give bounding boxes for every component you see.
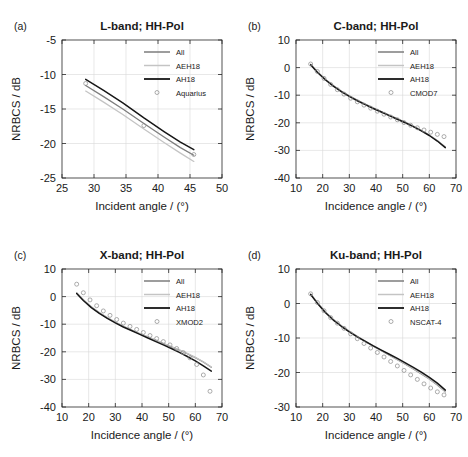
panel-tag: (a) [14, 20, 27, 32]
panel-b: (b)C-band; HH-Pol10203040506070-40-30-20… [234, 0, 468, 228]
y-tick-label: 0 [284, 62, 290, 74]
x-axis-label: Incidence angle / (°) [325, 429, 428, 441]
x-tick-label: 30 [343, 411, 355, 423]
panel-title: Ku-band; HH-Pol [330, 249, 422, 261]
panel-tag: (b) [248, 20, 261, 32]
y-tick-label: 0 [50, 291, 56, 303]
legend-label: All [410, 48, 419, 57]
x-tick-label: 50 [216, 182, 228, 194]
series-line-aeh18 [86, 91, 194, 161]
x-tick-label: 40 [136, 411, 148, 423]
panel-c: (c)X-band; HH-Pol10203040506070-40-30-20… [0, 229, 234, 457]
x-tick-label: 60 [423, 182, 435, 194]
panel-tag: (d) [248, 249, 261, 261]
panel-title: L-band; HH-Pol [100, 20, 184, 32]
y-axis-label: NRBCS / dB [10, 306, 22, 370]
x-axis-label: Incident angle / (°) [95, 200, 189, 212]
panel-title: X-band; HH-Pol [100, 249, 184, 261]
legend-swatch-marker [389, 91, 393, 95]
x-tick-label: 50 [397, 182, 409, 194]
x-tick-label: 70 [450, 411, 462, 423]
y-tick-label: -20 [274, 117, 290, 129]
y-tick-label: -15 [40, 103, 56, 115]
y-axis-label: NRBCS / dB [244, 306, 256, 370]
y-tick-label: -10 [274, 89, 290, 101]
x-tick-label: 60 [189, 411, 201, 423]
legend [378, 281, 404, 324]
x-tick-label: 30 [343, 182, 355, 194]
y-axis-label: NRBCS / dB [244, 77, 256, 141]
legend-label: AEH18 [410, 291, 434, 300]
x-axis-label: Incidence angle / (°) [325, 200, 428, 212]
x-tick-label: 50 [163, 411, 175, 423]
y-tick-label: -20 [40, 346, 56, 358]
legend-label: AEH18 [176, 62, 200, 71]
x-tick-label: 10 [290, 182, 302, 194]
x-tick-label: 20 [83, 411, 95, 423]
x-tick-label: 45 [184, 182, 196, 194]
y-tick-label: -30 [274, 144, 290, 156]
x-tick-label: 60 [423, 411, 435, 423]
legend-label: AH18 [410, 304, 429, 313]
x-tick-label: 10 [290, 411, 302, 423]
legend-label: AH18 [410, 75, 429, 84]
y-tick-label: -30 [274, 401, 290, 413]
legend-label: AH18 [176, 304, 195, 313]
x-axis-label: Incidence angle / (°) [91, 429, 194, 441]
legend-label: All [410, 277, 419, 286]
legend-label: AH18 [176, 75, 195, 84]
x-tick-label: 35 [120, 182, 132, 194]
y-tick-label: 10 [44, 263, 56, 275]
y-tick-label: -20 [274, 367, 290, 379]
panel-tag: (c) [14, 249, 26, 261]
y-tick-label: -30 [40, 373, 56, 385]
series-markers-cmod7 [309, 62, 446, 139]
y-tick-label: -10 [40, 69, 56, 81]
legend [378, 52, 404, 95]
x-tick-label: 50 [397, 411, 409, 423]
x-tick-label: 20 [317, 182, 329, 194]
panel-d: (d)Ku-band; HH-Pol10203040506070-30-20-1… [234, 229, 468, 457]
x-tick-label: 40 [370, 411, 382, 423]
legend-swatch-marker [389, 320, 393, 324]
y-tick-label: 10 [278, 34, 290, 46]
legend-swatch-marker [155, 91, 159, 95]
x-tick-label: 30 [109, 411, 121, 423]
legend-label: All [176, 277, 185, 286]
legend-swatch-marker [155, 320, 159, 324]
x-tick-label: 10 [56, 411, 68, 423]
y-tick-label: -10 [274, 332, 290, 344]
legend-label: XMOD2 [176, 318, 203, 327]
legend-label: CMOD7 [410, 89, 437, 98]
y-tick-label: 0 [284, 298, 290, 310]
y-tick-label: -40 [40, 401, 56, 413]
x-tick-label: 30 [88, 182, 100, 194]
x-tick-label: 40 [370, 182, 382, 194]
x-tick-label: 20 [317, 411, 329, 423]
figure-multi-panel-nrbcs: (a)L-band; HH-Pol253035404550-25-20-15-1… [0, 0, 468, 457]
x-tick-label: 25 [56, 182, 68, 194]
panel-a: (a)L-band; HH-Pol253035404550-25-20-15-1… [0, 0, 234, 228]
y-tick-label: -5 [46, 34, 56, 46]
y-tick-label: -10 [40, 318, 56, 330]
y-tick-label: -20 [40, 138, 56, 150]
legend-label: AEH18 [176, 291, 200, 300]
y-tick-label: -40 [274, 172, 290, 184]
y-axis-label: NRBCS / dB [10, 77, 22, 141]
x-tick-label: 70 [450, 182, 462, 194]
legend [144, 52, 170, 95]
legend-label: Aquarius [176, 89, 206, 98]
y-tick-label: 10 [278, 263, 290, 275]
x-tick-label: 70 [216, 411, 228, 423]
panel-title: C-band; HH-Pol [334, 20, 419, 32]
legend-label: All [176, 48, 185, 57]
y-tick-label: -25 [40, 172, 56, 184]
legend [144, 281, 170, 324]
x-tick-label: 40 [152, 182, 164, 194]
legend-label: AEH18 [410, 62, 434, 71]
legend-label: NSCAT-4 [410, 318, 442, 327]
